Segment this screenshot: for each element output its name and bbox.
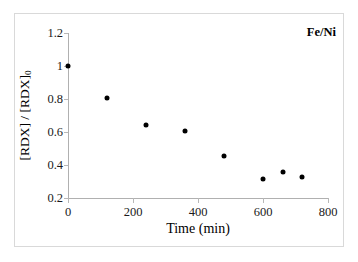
x-tick-label: 400: [189, 206, 208, 219]
x-tick-mark: [68, 198, 69, 203]
y-tick-label: 1.2: [47, 27, 63, 40]
plot-area: 0.20.40.60.811.2 0200400600800: [68, 33, 328, 198]
x-tick-mark: [133, 198, 134, 203]
x-axis-title: Time (min): [68, 222, 328, 236]
y-tick-label: 0.4: [47, 159, 63, 172]
y-tick-label: 0.2: [47, 192, 63, 205]
y-axis-title-text: [RDX] / [RDX]0: [16, 33, 35, 198]
data-point: [222, 153, 227, 158]
data-point: [261, 177, 266, 182]
y-tick-mark: [64, 165, 68, 166]
data-point: [105, 96, 110, 101]
x-tick-label: 0: [65, 206, 71, 219]
y-tick-mark: [64, 33, 68, 34]
data-point: [300, 174, 305, 179]
x-tick-label: 200: [124, 206, 143, 219]
x-tick-mark: [263, 198, 264, 203]
y-tick-mark: [64, 99, 68, 100]
data-point: [183, 129, 188, 134]
data-point: [66, 64, 71, 69]
x-tick-label: 800: [319, 206, 338, 219]
x-tick-label: 600: [254, 206, 273, 219]
y-tick-mark: [64, 132, 68, 133]
y-axis-title-subscript: 0: [23, 70, 33, 75]
y-tick-label: 1: [57, 60, 63, 73]
x-tick-mark: [328, 198, 329, 203]
x-tick-mark: [198, 198, 199, 203]
data-point: [280, 169, 285, 174]
chart-figure: Fe/Ni 0.20.40.60.811.2 0200400600800 [RD…: [0, 0, 358, 262]
data-point: [144, 122, 149, 127]
y-tick-label: 0.6: [47, 126, 63, 139]
y-axis-title: [RDX] / [RDX]0: [16, 33, 34, 198]
y-tick-label: 0.8: [47, 93, 63, 106]
